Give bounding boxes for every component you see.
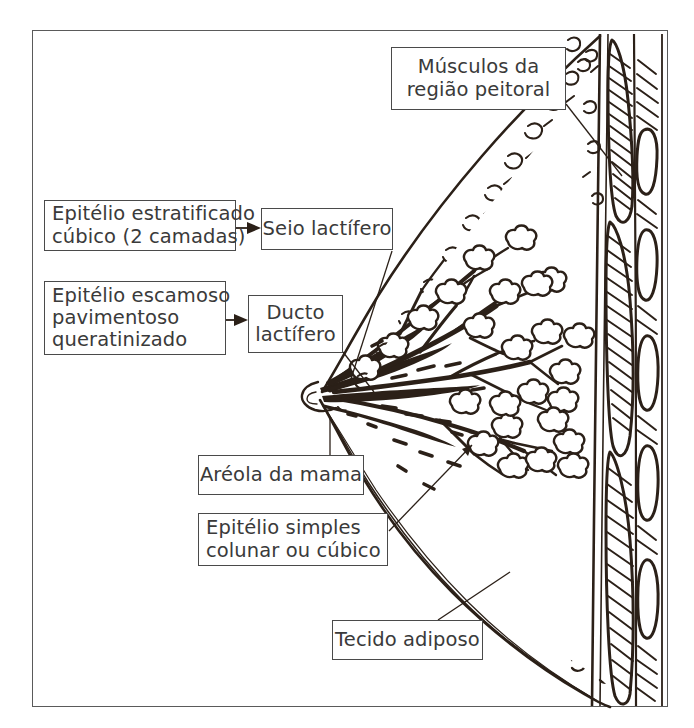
breast-anatomy-illustration — [0, 0, 694, 728]
label-areola-da-mama: Aréola da mama — [198, 455, 364, 495]
label-line: cúbico (2 camadas) — [52, 226, 245, 248]
label-line: lactífero — [255, 324, 335, 346]
label-line: pavimentoso — [52, 307, 179, 329]
label-line: Ducto — [266, 302, 324, 324]
label-line: Músculos da — [418, 56, 540, 78]
label-line: Tecido adiposo — [335, 629, 480, 651]
label-line: Aréola da mama — [200, 464, 362, 486]
label-musculos-regiao-peitoral: Músculos da região peitoral — [391, 47, 566, 110]
label-line: Seio lactífero — [263, 218, 392, 240]
leader-epitelio-simples — [389, 445, 472, 531]
label-seio-lactifero: Seio lactífero — [261, 208, 393, 250]
label-epitelio-estratificado-cubico: Epitélio estratificado cúbico (2 camadas… — [44, 200, 236, 251]
label-epitelio-escamoso-queratinizado: Epitélio escamoso pavimentoso queratiniz… — [44, 281, 226, 355]
label-ducto-lactifero: Ducto lactífero — [248, 295, 343, 353]
label-line: colunar ou cúbico — [206, 540, 381, 562]
label-line: região peitoral — [407, 79, 551, 101]
label-line: queratinizado — [52, 329, 187, 351]
label-line: Epitélio estratificado — [52, 203, 255, 225]
label-tecido-adiposo: Tecido adiposo — [332, 620, 483, 660]
label-line: Epitélio escamoso — [52, 285, 230, 307]
label-epitelio-simples-colunar: Epitélio simples colunar ou cúbico — [198, 513, 388, 566]
label-line: Epitélio simples — [206, 517, 361, 539]
